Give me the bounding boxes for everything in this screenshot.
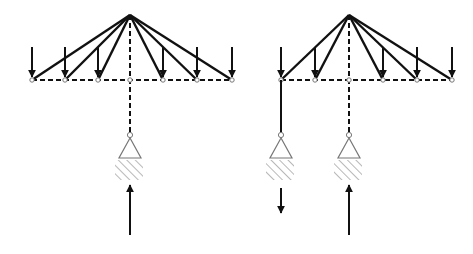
node-hinge <box>313 78 317 82</box>
node-hinge <box>450 78 454 82</box>
node-hinge <box>161 78 165 82</box>
node-hinge <box>347 78 351 82</box>
truss-left <box>30 15 234 235</box>
truss-diagram-canvas <box>0 0 473 254</box>
node-hinge <box>96 78 100 82</box>
diagrams-layer <box>30 15 454 235</box>
node-hinge <box>30 78 34 82</box>
pin-support-triangle-icon <box>270 138 292 158</box>
solid-member <box>349 15 452 80</box>
truss-right <box>266 15 454 235</box>
solid-member <box>315 15 349 80</box>
node-hinge <box>381 78 385 82</box>
node-hinge <box>415 78 419 82</box>
node-hinge <box>230 78 234 82</box>
ground-hatch-icon <box>334 160 362 180</box>
node-hinge <box>195 78 199 82</box>
pin-support-triangle-icon <box>338 138 360 158</box>
node-hinge <box>63 78 67 82</box>
ground-hatch-icon <box>115 160 143 180</box>
pin-support-triangle-icon <box>119 138 141 158</box>
ground-hatch-icon <box>266 160 294 180</box>
node-hinge <box>128 78 132 82</box>
